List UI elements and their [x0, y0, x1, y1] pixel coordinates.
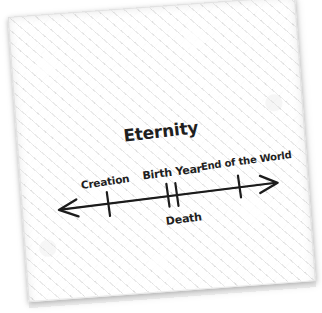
napkin: Eternity Creation Birth Year Death	[8, 0, 317, 308]
screenshot-canvas: Eternity Creation Birth Year Death	[0, 0, 322, 313]
label-end-of-the-world: End of the World	[200, 149, 292, 172]
label-creation: Creation	[80, 172, 130, 191]
end-of-world-tick	[238, 175, 241, 197]
label-birth-year: Birth Year	[142, 162, 204, 182]
hand-drawn-timeline: Eternity Creation Birth Year Death	[8, 0, 316, 302]
label-death: Death	[165, 210, 202, 227]
title-eternity: Eternity	[122, 117, 199, 146]
